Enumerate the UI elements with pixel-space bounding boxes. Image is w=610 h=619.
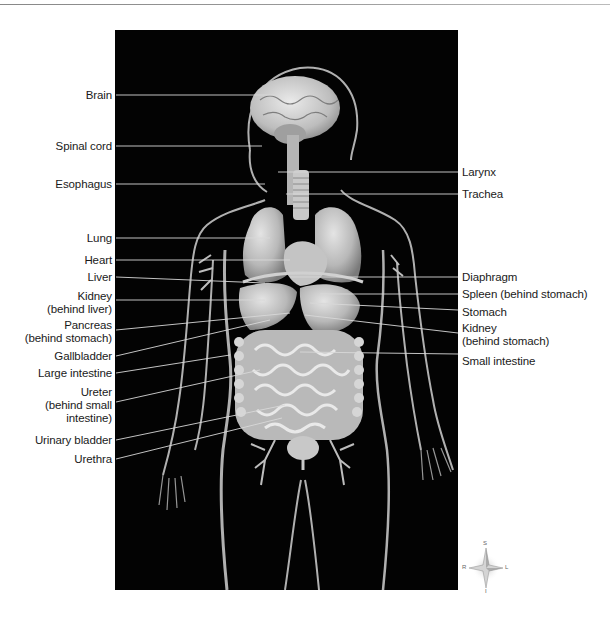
body-outline bbox=[163, 68, 453, 590]
label-large-intestine: Large intestine bbox=[38, 367, 112, 380]
label-stomach: Stomach bbox=[462, 306, 507, 319]
top-rule bbox=[0, 4, 610, 5]
label-kidney-right-line1: Kidney bbox=[462, 322, 549, 335]
label-kidney-behind-liver: Kidney (behind liver) bbox=[47, 290, 112, 316]
label-spinal-cord: Spinal cord bbox=[56, 140, 112, 153]
label-lung: Lung bbox=[87, 232, 112, 245]
label-kidney-right-line2: (behind stomach) bbox=[462, 335, 549, 348]
orientation-compass: S I R L bbox=[463, 542, 509, 594]
label-heart: Heart bbox=[84, 254, 112, 267]
label-gallbladder: Gallbladder bbox=[54, 350, 112, 363]
anatomy-figure-panel bbox=[115, 30, 458, 590]
label-ureter-line1: Ureter bbox=[45, 386, 112, 399]
label-esophagus: Esophagus bbox=[55, 178, 112, 191]
label-pancreas-line2: (behind stomach) bbox=[25, 332, 112, 345]
label-urethra: Urethra bbox=[74, 453, 112, 466]
right-lung-organ bbox=[243, 207, 287, 282]
label-ureter-line2: (behind small bbox=[45, 399, 112, 412]
compass-inferior: I bbox=[485, 588, 487, 594]
intestines-organ bbox=[234, 330, 364, 440]
compass-superior: S bbox=[483, 540, 487, 546]
stomach-organ bbox=[300, 284, 360, 332]
label-pancreas-line1: Pancreas bbox=[25, 319, 112, 332]
label-ureter: Ureter (behind small intestine) bbox=[45, 386, 112, 425]
compass-right: R bbox=[462, 564, 466, 570]
brain-organ bbox=[250, 76, 340, 144]
label-kidney-behind-stomach: Kidney (behind stomach) bbox=[462, 322, 549, 348]
compass-star-icon bbox=[463, 542, 509, 594]
label-kidney-line1: Kidney bbox=[47, 290, 112, 303]
label-spleen: Spleen (behind stomach) bbox=[462, 288, 588, 301]
label-urinary-bladder: Urinary bladder bbox=[35, 434, 112, 447]
urinary-bladder-organ bbox=[287, 436, 319, 460]
label-ureter-line3: intestine) bbox=[45, 412, 112, 425]
compass-left: L bbox=[505, 564, 508, 570]
label-diaphragm: Diaphragm bbox=[462, 271, 517, 284]
label-pancreas: Pancreas (behind stomach) bbox=[25, 319, 112, 345]
label-small-intestine: Small intestine bbox=[462, 355, 535, 368]
label-trachea: Trachea bbox=[462, 188, 503, 201]
liver-organ bbox=[239, 283, 297, 330]
label-liver: Liver bbox=[88, 271, 112, 284]
human-figure-illustration bbox=[115, 30, 458, 590]
label-larynx: Larynx bbox=[462, 166, 496, 179]
label-brain: Brain bbox=[86, 89, 112, 102]
label-kidney-line2: (behind liver) bbox=[47, 303, 112, 316]
